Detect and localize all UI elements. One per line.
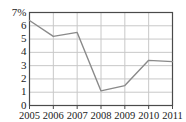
y-axis-tick-label: 0 [21,100,27,111]
y-axis-tick-label: 3 [21,60,27,71]
x-axis-tick-label: 2006 [40,111,66,122]
line-chart: 7%65432102005200620072008200920102011 [0,0,185,122]
y-axis-tick-label: 7% [12,7,27,18]
y-axis-tick-label: 5 [21,33,27,44]
x-axis-tick-label: 2008 [88,111,114,122]
x-axis-tick-label: 2005 [17,111,43,122]
x-axis-tick-label: 2007 [64,111,90,122]
y-axis-tick-label: 4 [21,46,27,57]
y-axis-tick-label: 1 [21,86,27,97]
y-axis-tick-label: 2 [21,73,27,84]
x-axis-tick-label: 2011 [160,111,186,122]
x-axis-tick-label: 2010 [136,111,162,122]
x-axis-tick-label: 2009 [112,111,138,122]
chart-canvas [0,0,185,122]
y-axis-tick-label: 6 [21,20,27,31]
